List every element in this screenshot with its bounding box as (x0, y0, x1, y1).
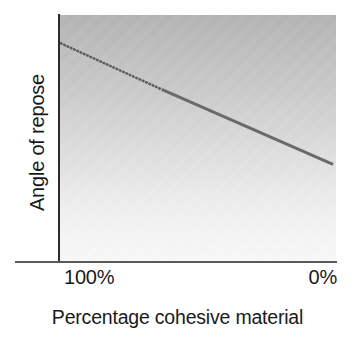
data-series-line (60, 15, 336, 261)
data-line-measured-segment (162, 89, 333, 164)
x-axis-tick-label-right: 0% (236, 266, 337, 289)
x-axis-line (15, 261, 337, 263)
x-axis-title: Percentage cohesive material (12, 306, 343, 329)
data-line-extrapolated-segment (61, 43, 162, 89)
chart-figure: Angle of repose 100% 0% Percentage cohes… (0, 0, 355, 344)
y-axis-label: Angle of repose (26, 53, 49, 233)
x-axis-tick-label-left: 100% (64, 266, 114, 289)
